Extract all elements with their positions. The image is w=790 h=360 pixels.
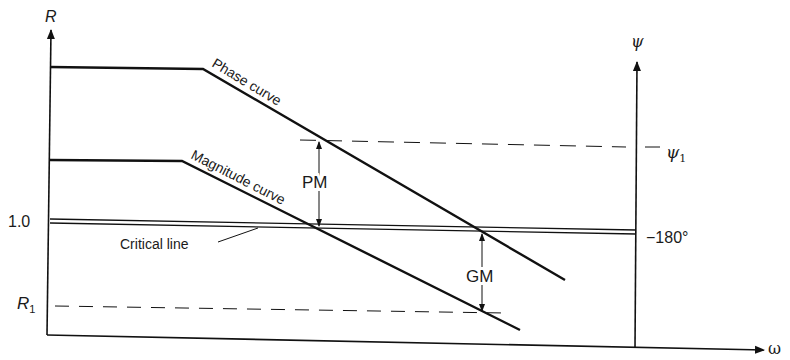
phase-curve-label: Phase curve (209, 55, 284, 109)
pm-label: PM (302, 173, 328, 192)
psi1-dashed-line (300, 140, 626, 147)
right-axis (635, 62, 637, 348)
x-axis-label: ω (768, 339, 781, 358)
critical-line (50, 219, 636, 234)
r1-label: R1 (17, 294, 35, 315)
left-axis-label: R (45, 8, 57, 25)
one-point-zero-label: 1.0 (8, 213, 30, 230)
left-axis (47, 30, 51, 335)
psi1-label: ψ1 (666, 142, 686, 165)
stability-margin-diagram: R ω ψ Critical line Phase curve Magnitud… (0, 0, 790, 360)
minus-180-label: −180° (646, 229, 688, 246)
x-axis (47, 335, 764, 350)
magnitude-curve-label: Magnitude curve (189, 146, 289, 207)
critical-line-label: Critical line (120, 236, 189, 252)
right-axis-label: ψ (631, 32, 644, 51)
critical-line-leader (218, 228, 258, 242)
gm-label: GM (466, 267, 493, 286)
r1-dashed-line (55, 306, 505, 313)
